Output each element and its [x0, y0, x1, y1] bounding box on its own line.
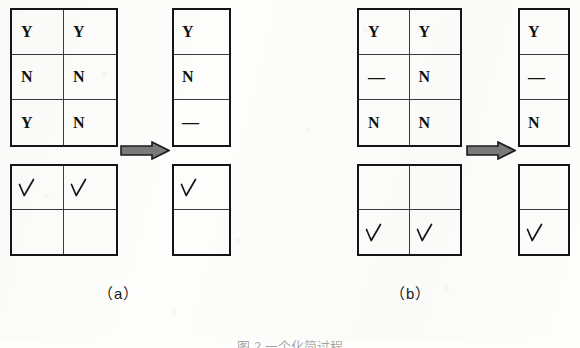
marks-cell [174, 210, 229, 254]
marks-b-result [518, 164, 570, 256]
matrix-cell: Y [520, 10, 568, 55]
marks-b-source [357, 164, 462, 256]
figure-caption: 图 2 一个化简过程 [0, 336, 580, 348]
matrix-cell: — [174, 100, 229, 145]
subfigure-b-label: （b） [390, 282, 431, 303]
check-mark-icon [18, 178, 35, 197]
matrix-b-source: Y Y — N N N [357, 8, 462, 147]
matrix-cell: N [359, 100, 410, 145]
matrix-cell: Y [12, 100, 64, 145]
marks-a-source [10, 164, 118, 256]
matrix-cell: Y [12, 10, 64, 55]
marks-cell [12, 166, 64, 210]
marks-cell [520, 210, 568, 254]
matrix-cell: Y [359, 10, 410, 55]
matrix-cell: — [520, 55, 568, 100]
marks-cell [520, 166, 568, 210]
matrix-a-result: Y N — [172, 8, 231, 147]
matrix-cell: N [64, 55, 116, 100]
matrix-cell: N [12, 55, 64, 100]
marks-cell [64, 210, 116, 254]
matrix-cell: N [520, 100, 568, 145]
matrix-cell: N [174, 55, 229, 100]
marks-cell [12, 210, 64, 254]
check-mark-icon [365, 223, 382, 242]
matrix-cell: Y [64, 10, 116, 55]
right-arrow-icon [466, 141, 516, 160]
check-mark-icon [416, 223, 433, 242]
subfigure-a-label: （a） [98, 282, 139, 303]
right-arrow-icon [120, 141, 170, 160]
check-mark-icon [526, 223, 543, 242]
marks-cell [64, 166, 116, 210]
marks-cell [410, 210, 461, 254]
marks-cell [359, 210, 410, 254]
marks-cell [359, 166, 410, 210]
marks-a-result [172, 164, 231, 256]
marks-cell [174, 166, 229, 210]
matrix-cell: Y [410, 10, 461, 55]
check-mark-icon [70, 178, 87, 197]
check-mark-icon [180, 178, 197, 197]
marks-cell [410, 166, 461, 210]
matrix-cell: N [410, 100, 461, 145]
matrix-cell: N [410, 55, 461, 100]
matrix-a-source: Y Y N N Y N [10, 8, 118, 147]
matrix-b-result: Y — N [518, 8, 570, 147]
matrix-cell: — [359, 55, 410, 100]
matrix-cell: Y [174, 10, 229, 55]
matrix-cell: N [64, 100, 116, 145]
